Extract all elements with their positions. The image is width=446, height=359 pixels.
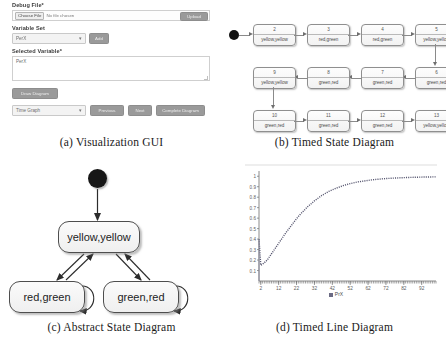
chart-y-tick-label: 0.1 [250,268,256,273]
abstract-state-diagram: yellow,yellow red,green green,red [0,155,223,330]
variable-set-selected-value: PerX [16,36,26,41]
state-node-11-label: green,red [308,121,349,131]
state-node-4[interactable]: 4 red,green [361,24,404,46]
chart-y-tick-label: 1 [253,174,256,179]
state-node-9-id: 9 [254,68,295,78]
chart-y-tick-label: 0.6 [250,216,256,221]
edge-7-8 [352,78,362,79]
resize-grip-icon[interactable] [204,76,208,80]
caption-panel-b: (b) Timed State Diagram [223,136,446,148]
chart-svg [231,159,441,307]
state-node-9-label: yellow,yellow [254,78,295,88]
state-node-6[interactable]: 6 green,red [415,67,446,89]
state-node-12-id: 12 [362,111,403,121]
arrowhead-icon [271,105,275,109]
state-node-6-label: green,red [416,78,446,88]
upload-button[interactable]: Upload [180,12,208,21]
state-node-13-id: 13 [416,111,446,121]
state-node-7-label: green,red [362,78,403,88]
chart-legend: PrX [231,291,441,297]
state-node-12-label: green,red [362,121,403,131]
caption-panel-d: (d) Timed Line Diagram [223,321,446,333]
abstract-state-yellow-yellow[interactable]: yellow,yellow [58,221,140,253]
next-button[interactable]: Next [128,105,152,116]
edge-8-9 [298,78,308,79]
variable-set-label: Variable Set [12,25,210,31]
arrowhead-icon [433,62,437,66]
file-status-text: No file chosen [46,13,74,18]
state-node-10[interactable]: 10 green,red [253,110,296,132]
figure-panel-d: 0.10.20.30.40.50.60.70.80.91 21222324252… [223,155,446,359]
state-node-5-id: 5 [416,25,446,35]
state-node-5-label: yellow,yellow [416,35,446,45]
state-node-8[interactable]: 8 green,red [307,67,350,89]
state-node-2-label: yellow,yellow [254,35,295,45]
chart-y-tick-label: 0.7 [250,205,256,210]
chart-y-tick-label: 0.2 [250,258,256,263]
gui-footer-row: Time Graph ▾ Previous Next Complete Diag… [12,105,210,116]
caption-panel-c: (c) Abstract State Diagram [0,321,223,333]
state-node-3-id: 3 [308,25,349,35]
state-node-4-id: 4 [362,25,403,35]
add-variable-button[interactable]: Add [89,33,109,44]
caption-panel-a: (a) Visualization GUI [0,136,223,148]
figure-panel-c: yellow,yellow red,green green,red (c) Ab… [0,155,223,359]
draw-diagram-button[interactable]: Draw Diagram [12,88,58,99]
state-node-2-id: 2 [254,25,295,35]
variable-set-row: PerX ▾ Add [12,33,210,44]
state-node-10-id: 10 [254,111,295,121]
abstract-state-green-red[interactable]: green,red [103,281,179,313]
chart-series-prx [259,177,436,265]
state-node-3-label: red,green [308,35,349,45]
chart-x-ticks [259,281,436,285]
edge-9-10 [273,87,274,107]
chevron-down-icon: ▾ [79,36,82,41]
selected-variable-value: PerX [16,59,209,64]
state-node-8-id: 8 [308,68,349,78]
state-node-4-label: red,green [362,35,403,45]
state-node-10-label: green,red [254,121,295,131]
visualization-gui: Debug File* Choose File No file chosen U… [12,2,210,132]
chart-y-tick-label: 0.4 [250,237,256,242]
state-node-13-label: yellow,yellow [416,121,446,131]
state-node-11-id: 11 [308,111,349,121]
abstract-state-yellow-yellow-label: yellow,yellow [67,231,131,243]
figure-panel-a: Debug File* Choose File No file chosen U… [0,0,223,155]
edge-5-6 [435,44,436,64]
debug-file-input-row[interactable]: Choose File No file chosen Upload [12,10,210,21]
selected-variable-label: Selected Variable* [12,48,210,54]
chart-y-tick-label: 0.8 [250,195,256,200]
debug-file-label: Debug File* [12,2,210,8]
state-node-6-id: 6 [416,68,446,78]
figure-panel-b: 2 yellow,yellow 3 red,green 4 red,green … [223,0,446,155]
state-node-7-id: 7 [362,68,403,78]
abstract-state-green-red-label: green,red [117,291,164,303]
diagram-type-selected-value: Time Graph [16,108,40,113]
legend-label-prx: PrX [335,291,343,297]
legend-swatch-icon [329,293,333,297]
state-node-5[interactable]: 5 yellow,yellow [415,24,446,46]
complete-diagram-button[interactable]: Complete Diagram [156,105,205,116]
timed-state-diagram: 2 yellow,yellow 3 red,green 4 red,green … [223,14,446,134]
initial-state-node [229,30,239,40]
state-node-12[interactable]: 12 green,red [361,110,404,132]
state-node-8-label: green,red [308,78,349,88]
previous-button[interactable]: Previous [90,105,124,116]
state-node-7[interactable]: 7 green,red [361,67,404,89]
state-node-9[interactable]: 9 yellow,yellow [253,67,296,89]
variable-set-select[interactable]: PerX ▾ [12,33,86,44]
diagram-type-select[interactable]: Time Graph ▾ [12,105,86,116]
state-node-3[interactable]: 3 red,green [307,24,350,46]
selected-variable-textarea[interactable]: PerX [12,56,210,81]
abstract-state-red-green-label: red,green [23,291,70,303]
initial-state-node [88,169,107,188]
chart-y-tick-label: 0.5 [250,226,256,231]
state-node-13[interactable]: 13 yellow,yellow [415,110,446,132]
state-node-2[interactable]: 2 yellow,yellow [253,24,296,46]
state-node-11[interactable]: 11 green,red [307,110,350,132]
chart-y-tick-label: 0.9 [250,184,256,189]
edge-6-7 [406,78,416,79]
abstract-state-red-green[interactable]: red,green [9,281,85,313]
choose-file-button[interactable]: Choose File [15,12,44,20]
timed-line-chart: 0.10.20.30.40.50.60.70.80.91 21222324252… [231,159,441,307]
